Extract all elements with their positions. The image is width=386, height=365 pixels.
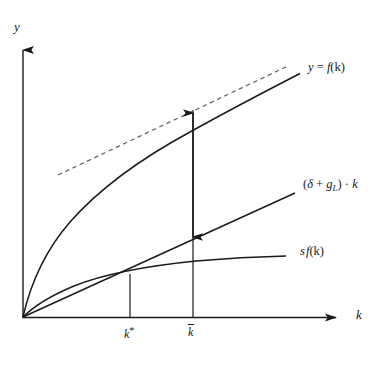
solow-growth-diagram: y k y = f(k) (δ + gL) · k s f(k) k* k: [0, 0, 386, 365]
tick-k-bar-k: k: [188, 326, 193, 338]
tick-label-k-bar: k: [188, 326, 193, 338]
break-even-investment-label: (δ + gL) · k: [303, 178, 358, 193]
production-function-label-eq: =: [314, 60, 327, 74]
depreciation-label-plus: +: [313, 177, 326, 191]
depreciation-label-k: k: [352, 177, 358, 191]
tangent-line-dashed: [58, 66, 289, 176]
break-even-investment-line: [23, 193, 295, 317]
saving-label-arg: (k): [309, 244, 324, 258]
saving-function-label: s f(k): [300, 245, 324, 258]
production-function-label: y = f(k): [308, 61, 345, 74]
y-axis-label: y: [14, 20, 20, 33]
saving-function-curve: [23, 256, 286, 317]
x-axis-label: k: [356, 308, 362, 321]
production-function-curve: [23, 74, 300, 318]
depreciation-label-dot: ·: [342, 177, 352, 191]
production-function-label-arg: (k): [330, 60, 345, 74]
tick-label-k-star: k*: [124, 326, 134, 340]
tick-k-star-asterisk: *: [129, 325, 134, 336]
